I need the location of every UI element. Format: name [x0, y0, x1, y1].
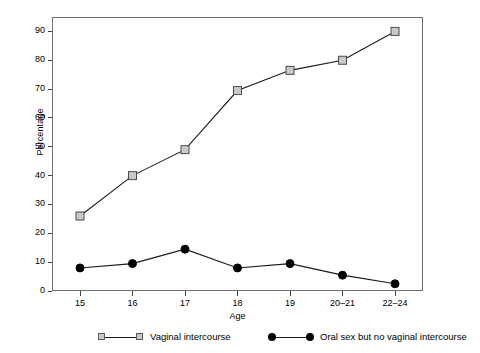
x-tick-mark — [80, 291, 81, 296]
x-tick-label: 18 — [208, 298, 268, 309]
y-tick-mark — [48, 204, 52, 205]
y-tick-mark — [48, 146, 52, 147]
legend-circle-marker-icon — [268, 330, 314, 344]
y-tick-mark — [48, 291, 52, 292]
x-tick-mark — [395, 291, 396, 296]
x-tick-mark — [342, 291, 343, 296]
x-tick-label: 16 — [103, 298, 163, 309]
chart-figure: Percentage 0102030405060708090 151617181… — [0, 0, 480, 353]
y-tick-label: 60 — [35, 112, 45, 123]
y-tick-mark — [48, 233, 52, 234]
x-tick-mark — [132, 291, 133, 296]
x-tick-label: 19 — [260, 298, 320, 309]
y-tick-label: 70 — [35, 83, 45, 94]
y-tick-mark — [48, 262, 52, 263]
x-tick-label: 17 — [155, 298, 215, 309]
y-tick-label: 90 — [35, 25, 45, 36]
legend-entry-vaginal-intercourse: Vaginal intercourse — [98, 328, 231, 346]
x-tick-mark — [185, 291, 186, 296]
legend-label: Oral sex but no vaginal intercourse — [320, 331, 467, 343]
y-tick-mark — [48, 117, 52, 118]
x-axis-title: Age — [52, 311, 423, 321]
y-tick-label: 80 — [35, 54, 45, 65]
x-tick-label: 20–21 — [313, 298, 373, 309]
y-tick-label: 10 — [35, 256, 45, 267]
x-tick-mark — [290, 291, 291, 296]
y-tick-label: 50 — [35, 141, 45, 152]
y-tick-label: 40 — [35, 170, 45, 181]
x-tick-label: 22–24 — [365, 298, 425, 309]
y-tick-label: 20 — [35, 227, 45, 238]
y-tick-label: 0 — [40, 285, 45, 296]
x-tick-mark — [237, 291, 238, 296]
x-tick-label: 15 — [50, 298, 110, 309]
legend-entry-oral-sex: Oral sex but no vaginal intercourse — [268, 328, 467, 346]
y-tick-mark — [48, 89, 52, 90]
y-tick-mark — [48, 60, 52, 61]
plot-area — [52, 17, 423, 291]
y-tick-mark — [48, 31, 52, 32]
legend-square-marker-icon — [98, 330, 144, 344]
y-tick-label: 30 — [35, 198, 45, 209]
y-tick-mark — [48, 175, 52, 176]
legend-label: Vaginal intercourse — [150, 331, 231, 343]
chart-legend: Vaginal intercourse Oral sex but no vagi… — [0, 328, 480, 348]
